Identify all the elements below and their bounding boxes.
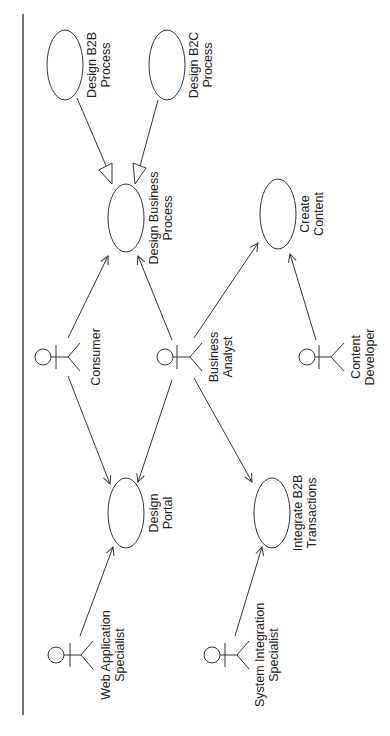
generalization-b2b-to-business-process [77,98,112,184]
actor-label: Business [207,332,221,383]
use-case-design-business-process: Design Business Process [108,171,175,264]
use-case-create-content: Create Content [260,179,326,249]
use-case-label: Create [298,195,312,233]
assoc-ba-integrate-b2b [194,378,252,482]
use-case-label: Design Business [147,171,161,264]
stick-figure-icon [48,641,93,669]
assoc-consumer-design-business-process [68,256,108,338]
actor-business-analyst: Business Analyst [157,332,235,383]
use-case-label: Portal [161,497,175,530]
actor-label: Web Application [99,610,113,699]
assoc-ba-design-business-process [138,256,172,340]
use-case-design-b2b-process: Design B2B Process [47,30,113,100]
actor-label: Specialist [113,628,127,682]
actor-label: Developer [363,329,377,386]
actor-label: Content [349,335,363,379]
use-case-design-portal: Design Portal [108,478,175,548]
actor-label: Consumer [89,328,103,386]
use-case-label: Transactions [305,477,319,548]
use-case-integrate-b2b-transactions: Integrate B2B Transactions [254,475,319,551]
use-case-design-b2c-process: Design B2C Process [149,30,215,100]
use-case-label: Integrate B2B [291,475,305,551]
use-case-label: Design B2B [85,32,99,98]
actor-content-developer: Content Developer [299,329,377,386]
use-case-diagram: Design B2B Process Design B2C Process De… [0,0,390,736]
stick-figure-icon [299,343,344,371]
use-case-label: Process [99,42,113,87]
use-case-label: Content [312,192,326,236]
use-case-label: Design [147,494,161,533]
actor-label: System Integration [253,603,267,707]
assoc-cd-create-content [290,254,316,340]
generalization-b2c-to-business-process [133,100,158,184]
actor-web-application-specialist: Web Application Specialist [48,610,127,699]
stick-figure-icon [157,343,202,371]
actor-system-integration-specialist: System Integration Specialist [204,603,281,707]
stick-figure-icon [204,641,249,669]
assoc-consumer-design-portal [68,376,110,484]
use-case-label: Process [201,42,215,87]
actor-label: Analyst [221,336,235,378]
actor-label: Specialist [267,628,281,682]
assoc-ba-design-portal [138,380,172,482]
use-case-label: Process [161,195,175,240]
stick-figure-icon [35,343,80,371]
use-case-label: Design B2C [187,32,201,99]
assoc-ba-create-content [194,243,258,338]
